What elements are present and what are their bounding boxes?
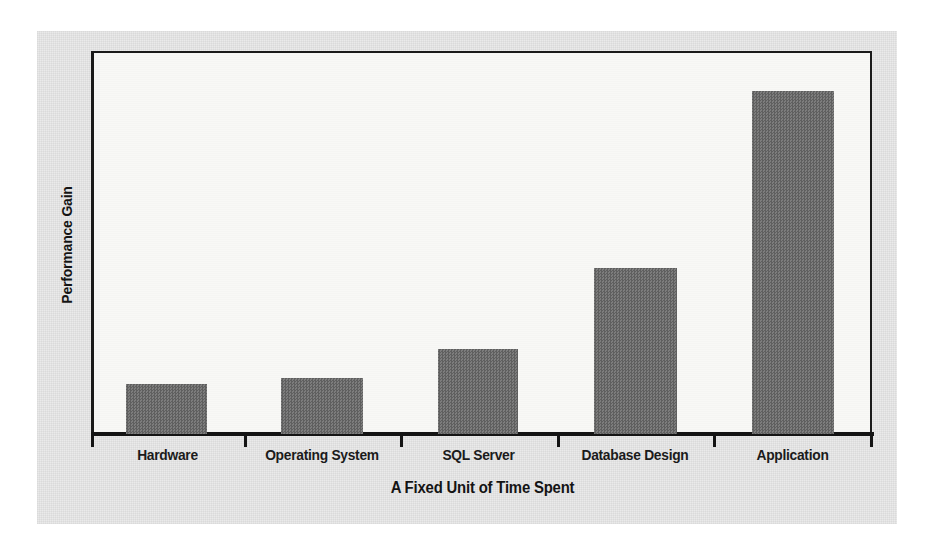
x-axis-tick: [91, 434, 94, 447]
bar-application: [752, 91, 834, 434]
x-axis-tick: [713, 434, 716, 447]
bars-layer: HardwareOperating SystemSQL ServerDataba…: [0, 0, 934, 547]
x-axis-category-label: SQL Server: [406, 446, 550, 463]
x-axis-category-label: Application: [719, 446, 865, 463]
x-axis-title: A Fixed Unit of Time Spent: [118, 479, 846, 497]
x-axis-tick: [870, 434, 873, 447]
y-axis-title: Performance Gain: [59, 145, 75, 345]
bar-database-design: [594, 268, 677, 434]
x-axis-category-label: Database Design: [563, 446, 707, 463]
x-axis-tick: [557, 434, 560, 447]
bar-operating-system: [281, 378, 363, 434]
x-axis-category-label: Hardware: [97, 446, 238, 463]
x-axis-category-label: Operating System: [250, 446, 394, 463]
chart-canvas: HardwareOperating SystemSQL ServerDataba…: [0, 0, 934, 547]
bar-hardware: [126, 384, 207, 434]
bar-sql-server: [438, 349, 518, 434]
x-axis-tick: [244, 434, 247, 447]
x-axis-tick: [400, 434, 403, 447]
